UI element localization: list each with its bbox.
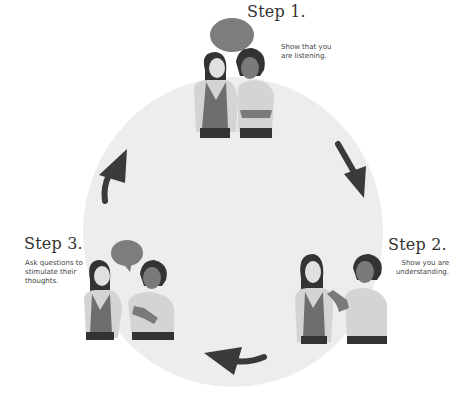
arrow-icon-bottom [200,345,270,385]
step-2-illustration [293,248,393,348]
arrow-icon-left-up [95,145,135,205]
step-3-illustration [82,228,182,348]
step-1-illustration [180,0,280,140]
step-2-title: Step 2. [388,235,447,254]
step-1-description: Show that you are listening. [281,43,331,61]
speech-bubble-icon [111,240,143,272]
step-3-title: Step 3. [24,234,83,253]
step-3-description: Ask questions to stimulate their thought… [25,259,83,286]
arrow-icon-top-right [330,140,370,200]
step-2-description: Show you are understanding. [393,259,449,277]
